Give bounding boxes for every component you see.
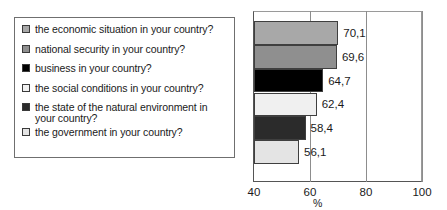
bar-value-label: 64,7: [328, 75, 350, 87]
legend-item: the government in your country?: [22, 127, 227, 138]
bar: [254, 116, 306, 140]
legend-item: the economic situation in your country?: [22, 24, 227, 35]
legend-swatch-icon: [22, 84, 30, 92]
bar: [254, 93, 317, 117]
bar-series: 70,169,664,762,458,456,1: [254, 11, 422, 182]
legend-item: the social conditions in your country?: [22, 83, 227, 94]
x-tick-label: 40: [248, 186, 261, 198]
legend-item-label: the economic situation in your country?: [35, 24, 213, 35]
bar-row: 62,4: [254, 93, 422, 117]
gridline: [422, 11, 423, 182]
bar-value-label: 62,4: [322, 98, 344, 110]
bar: [254, 140, 299, 164]
bar-row: 70,1: [254, 21, 422, 45]
bar: [254, 45, 337, 69]
bar-value-label: 70,1: [343, 27, 365, 39]
x-tick-label: 100: [412, 186, 431, 198]
chart-legend: the economic situation in your country? …: [14, 17, 235, 158]
legend-swatch-icon: [22, 64, 30, 72]
legend-swatch-icon: [22, 45, 30, 53]
bar-row: 56,1: [254, 140, 422, 164]
legend-item-label: national security in your country?: [35, 44, 185, 55]
legend-swatch-icon: [22, 103, 30, 111]
bar-row: 64,7: [254, 69, 422, 93]
bar-value-label: 69,6: [342, 51, 364, 63]
bar-value-label: 58,4: [311, 122, 333, 134]
bar: [254, 21, 338, 45]
bar-chart-plot: 70,169,664,762,458,456,1: [253, 11, 422, 182]
bar-row: 58,4: [254, 116, 422, 140]
x-tick-label: 80: [360, 186, 373, 198]
bar-row: 69,6: [254, 45, 422, 69]
bar-value-label: 56,1: [304, 146, 326, 158]
legend-item-label: the government in your country?: [35, 127, 182, 138]
legend-swatch-icon: [22, 128, 30, 136]
legend-swatch-icon: [22, 25, 30, 33]
legend-item: the state of the natural environment in …: [22, 102, 227, 124]
bar: [254, 69, 323, 93]
legend-item-label: the state of the natural environment in …: [35, 102, 227, 124]
legend-item: national security in your country?: [22, 44, 227, 55]
legend-item: business in your country?: [22, 63, 227, 74]
legend-item-label: the social conditions in your country?: [35, 83, 203, 94]
x-axis-title: %: [313, 197, 322, 209]
legend-item-label: business in your country?: [35, 63, 152, 74]
